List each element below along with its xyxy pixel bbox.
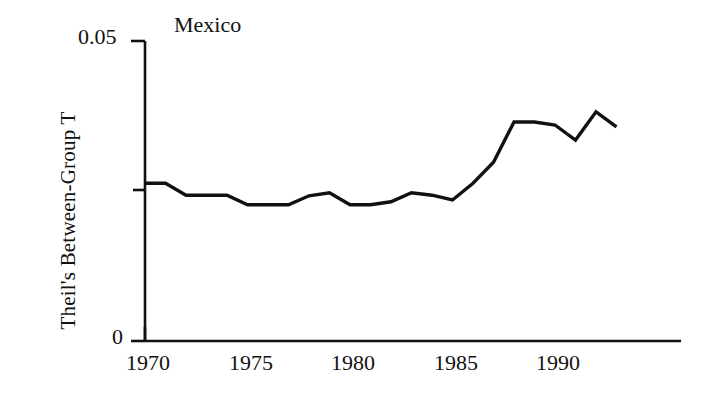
chart-title: Mexico [174,14,241,36]
chart-figure: Theil's Between-Group T 0.05 0 Mexico 19… [0,0,716,399]
y-axis-tick-label-max: 0.05 [78,26,117,48]
x-axis-tick-label-1990: 1990 [536,352,580,374]
plot-area [0,0,716,399]
x-axis-tick-label-1970: 1970 [126,352,170,374]
x-axis-tick-label-1980: 1980 [331,352,375,374]
x-axis-tick-label-1975: 1975 [229,352,273,374]
data-series-mexico [145,112,617,205]
x-axis-tick-label-1985: 1985 [434,352,478,374]
y-axis-title: Theil's Between-Group T [56,71,81,371]
y-axis-tick-label-min: 0 [112,326,123,348]
